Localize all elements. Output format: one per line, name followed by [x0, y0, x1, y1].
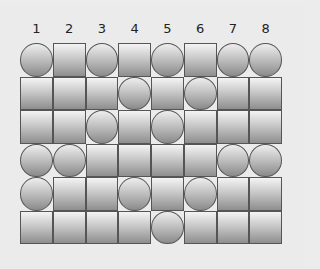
- grid-cell[interactable]: [151, 177, 184, 211]
- square-tile[interactable]: [86, 144, 119, 178]
- square-tile[interactable]: [249, 211, 282, 245]
- circle-tile[interactable]: [184, 177, 217, 211]
- grid-cell[interactable]: [184, 144, 217, 178]
- square-tile[interactable]: [217, 211, 250, 245]
- square-tile[interactable]: [118, 43, 151, 77]
- grid-cell[interactable]: [20, 211, 53, 245]
- square-tile[interactable]: [86, 177, 119, 211]
- grid-cell[interactable]: [86, 144, 119, 178]
- square-tile[interactable]: [151, 177, 184, 211]
- square-tile[interactable]: [118, 110, 151, 144]
- grid-cell[interactable]: [217, 211, 250, 245]
- square-tile[interactable]: [249, 77, 282, 111]
- square-tile[interactable]: [53, 177, 86, 211]
- grid-cell[interactable]: [20, 110, 53, 144]
- grid-cell[interactable]: [184, 77, 217, 111]
- circle-tile[interactable]: [20, 177, 53, 211]
- square-tile[interactable]: [184, 43, 217, 77]
- square-tile[interactable]: [151, 144, 184, 178]
- square-tile[interactable]: [151, 77, 184, 111]
- grid-cell[interactable]: [53, 211, 86, 245]
- grid-cell[interactable]: [118, 77, 151, 111]
- square-tile[interactable]: [217, 110, 250, 144]
- circle-tile[interactable]: [151, 211, 184, 245]
- grid-cell[interactable]: [217, 43, 250, 77]
- grid-cell[interactable]: [151, 144, 184, 178]
- grid-cell[interactable]: [118, 177, 151, 211]
- square-tile[interactable]: [20, 110, 53, 144]
- grid-cell[interactable]: [53, 177, 86, 211]
- square-tile[interactable]: [118, 211, 151, 245]
- grid-cell[interactable]: [118, 144, 151, 178]
- grid-cell[interactable]: [184, 177, 217, 211]
- grid-cell[interactable]: [53, 110, 86, 144]
- circle-tile[interactable]: [118, 77, 151, 111]
- grid-cell[interactable]: [249, 144, 282, 178]
- square-tile[interactable]: [20, 211, 53, 245]
- square-tile[interactable]: [217, 77, 250, 111]
- circle-tile[interactable]: [118, 177, 151, 211]
- column-header-6: 6: [184, 21, 217, 37]
- square-tile[interactable]: [86, 211, 119, 245]
- grid-cell[interactable]: [249, 77, 282, 111]
- square-tile[interactable]: [217, 177, 250, 211]
- square-tile[interactable]: [249, 177, 282, 211]
- grid-cell[interactable]: [20, 77, 53, 111]
- grid-cell[interactable]: [184, 110, 217, 144]
- circle-tile[interactable]: [151, 43, 184, 77]
- circle-tile[interactable]: [86, 110, 119, 144]
- grid-cell[interactable]: [20, 43, 53, 77]
- circle-tile[interactable]: [86, 43, 119, 77]
- square-tile[interactable]: [184, 211, 217, 245]
- grid-cell[interactable]: [151, 43, 184, 77]
- grid-cell[interactable]: [184, 43, 217, 77]
- grid-cell[interactable]: [249, 43, 282, 77]
- square-tile[interactable]: [53, 43, 86, 77]
- grid-cell[interactable]: [53, 77, 86, 111]
- grid-cell[interactable]: [118, 211, 151, 245]
- grid-cell[interactable]: [86, 110, 119, 144]
- grid-cell[interactable]: [217, 77, 250, 111]
- grid-cell[interactable]: [249, 177, 282, 211]
- grid-cell[interactable]: [151, 77, 184, 111]
- grid-cell[interactable]: [86, 43, 119, 77]
- grid-cell[interactable]: [217, 110, 250, 144]
- grid-cell[interactable]: [151, 211, 184, 245]
- grid-cell[interactable]: [249, 110, 282, 144]
- grid-cell[interactable]: [53, 43, 86, 77]
- circle-tile[interactable]: [151, 110, 184, 144]
- square-tile[interactable]: [184, 144, 217, 178]
- circle-tile[interactable]: [249, 43, 282, 77]
- grid-cell[interactable]: [217, 177, 250, 211]
- grid-cell[interactable]: [217, 144, 250, 178]
- circle-tile[interactable]: [217, 144, 250, 178]
- square-tile[interactable]: [20, 77, 53, 111]
- grid-cell[interactable]: [20, 177, 53, 211]
- circle-tile[interactable]: [53, 144, 86, 178]
- grid-cell[interactable]: [151, 110, 184, 144]
- column-header-8: 8: [249, 21, 282, 37]
- column-header-7: 7: [217, 21, 250, 37]
- grid-cell[interactable]: [118, 43, 151, 77]
- square-tile[interactable]: [53, 211, 86, 245]
- grid-cell[interactable]: [249, 211, 282, 245]
- square-tile[interactable]: [53, 110, 86, 144]
- circle-tile[interactable]: [217, 43, 250, 77]
- square-tile[interactable]: [53, 77, 86, 111]
- grid-cell[interactable]: [86, 177, 119, 211]
- circle-tile[interactable]: [20, 144, 53, 178]
- circle-tile[interactable]: [184, 77, 217, 111]
- square-tile[interactable]: [118, 144, 151, 178]
- grid-cell[interactable]: [20, 144, 53, 178]
- column-headers: 1 2 3 4 5 6 7 8: [20, 21, 282, 37]
- square-tile[interactable]: [86, 77, 119, 111]
- circle-tile[interactable]: [20, 43, 53, 77]
- grid-cell[interactable]: [86, 211, 119, 245]
- circle-tile[interactable]: [249, 144, 282, 178]
- square-tile[interactable]: [184, 110, 217, 144]
- grid-cell[interactable]: [184, 211, 217, 245]
- grid-cell[interactable]: [86, 77, 119, 111]
- grid-cell[interactable]: [53, 144, 86, 178]
- square-tile[interactable]: [249, 110, 282, 144]
- grid-cell[interactable]: [118, 110, 151, 144]
